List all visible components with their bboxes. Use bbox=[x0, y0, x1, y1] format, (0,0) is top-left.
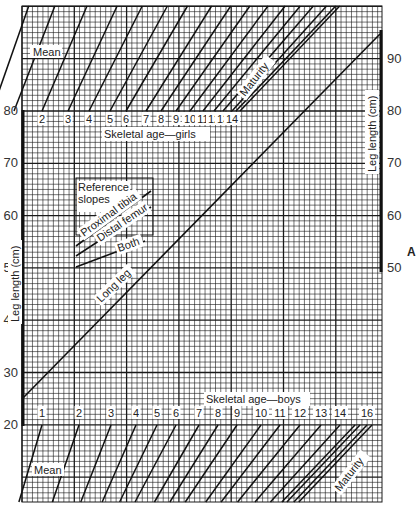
skeletal-age-lines bbox=[0, 6, 372, 502]
boys-age-tick: 13 bbox=[315, 407, 327, 419]
boys-age-tick: 6 bbox=[173, 407, 179, 419]
girls-age-label: Skeletal age—girls bbox=[102, 127, 210, 141]
girls-age-tick: 2 bbox=[39, 113, 45, 125]
svg-text:Mean: Mean bbox=[34, 464, 62, 476]
mean-label-girls: Mean bbox=[30, 45, 62, 58]
boys-age-tick: 4 bbox=[133, 407, 139, 419]
leg-length-chart: Reference slopes Proximal tibia Distal f… bbox=[0, 0, 416, 517]
left-axis-tick: 60 bbox=[4, 208, 18, 223]
svg-text:Skeletal age—boys: Skeletal age—boys bbox=[206, 393, 301, 405]
boys-age-tick: 3 bbox=[108, 407, 114, 419]
girls-age-tick: 10 bbox=[184, 113, 196, 125]
right-axis-tick: 60 bbox=[387, 208, 401, 223]
girls-age-tick: 6 bbox=[123, 113, 129, 125]
reference-title-1: Reference bbox=[78, 181, 129, 193]
boys-age-tick: 1 bbox=[39, 407, 45, 419]
right-axis-tick: 90 bbox=[387, 51, 401, 66]
svg-text:Skeletal age—girls: Skeletal age—girls bbox=[104, 128, 196, 140]
boys-age-label: Skeletal age—boys bbox=[204, 392, 310, 406]
svg-text:Mean: Mean bbox=[33, 46, 61, 58]
girls-age-tick: 7 bbox=[143, 113, 149, 125]
left-axis-tick: 20 bbox=[4, 417, 18, 432]
girls-age-tick: 4 bbox=[86, 113, 92, 125]
boys-age-tick: 2 bbox=[76, 407, 82, 419]
girls-age-tick: 9 bbox=[173, 113, 179, 125]
girls-age-tick: 3 bbox=[65, 113, 71, 125]
right-axis-ticks: 5060708090 bbox=[387, 51, 401, 275]
boys-age-tick: 10 bbox=[255, 407, 267, 419]
right-axis-tick: 70 bbox=[387, 155, 401, 170]
panel-letter: A bbox=[407, 245, 416, 259]
left-axis-tick: 30 bbox=[4, 365, 18, 380]
boys-age-row: 123456789101112131416 bbox=[38, 406, 376, 419]
girls-age-tick: 14 bbox=[226, 113, 238, 125]
left-axis-tick: 70 bbox=[4, 155, 18, 170]
left-axis-label: Leg length (cm) bbox=[9, 246, 21, 322]
boys-age-tick: 16 bbox=[361, 407, 373, 419]
right-axis-label-group: Leg length (cm) bbox=[365, 90, 379, 174]
boys-age-tick: 5 bbox=[154, 407, 160, 419]
reference-title-2: slopes bbox=[78, 193, 110, 205]
girls-age-tick: 8 bbox=[158, 113, 164, 125]
right-axis-tick: 80 bbox=[387, 103, 401, 118]
boys-age-tick: 9 bbox=[234, 407, 240, 419]
boys-age-tick: 11 bbox=[274, 407, 285, 419]
right-axis-label: Leg length (cm) bbox=[366, 96, 378, 172]
boys-age-tick: 12 bbox=[294, 407, 306, 419]
right-axis-tick: 50 bbox=[387, 260, 401, 275]
left-axis-label-group: Leg length (cm) bbox=[8, 240, 22, 324]
boys-age-tick: 14 bbox=[334, 407, 346, 419]
reference-slopes-box: Reference slopes Proximal tibia Distal f… bbox=[76, 178, 153, 267]
boys-age-tick: 8 bbox=[215, 407, 221, 419]
girls-age-tick: 5 bbox=[107, 113, 113, 125]
mean-label-boys: Mean bbox=[32, 463, 64, 476]
boys-age-tick: 7 bbox=[196, 407, 202, 419]
girls-age-row: 234567891011121314 bbox=[38, 112, 241, 125]
grid bbox=[22, 6, 382, 502]
left-axis-tick: 80 bbox=[4, 103, 18, 118]
long-leg-label-group: Long leg bbox=[93, 264, 137, 307]
